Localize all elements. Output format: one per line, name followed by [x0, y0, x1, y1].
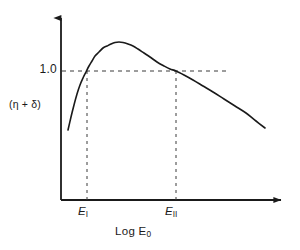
eta-plus-delta-curve: [68, 42, 265, 130]
x-tick-1-base: E: [78, 205, 86, 217]
x-axis-title-subscript: 0: [147, 230, 152, 239]
x-axis-tick-label-E-II: EII: [165, 206, 177, 220]
x-tick-1-subscript: I: [86, 210, 88, 219]
plot-canvas: [0, 0, 300, 250]
x-tick-2-subscript: II: [173, 210, 178, 219]
figure-container: 1.0 (η + δ) EI EII Log E0: [0, 0, 300, 250]
y-axis-tick-label-1.0: 1.0: [25, 63, 57, 75]
x-axis-tick-label-E-I: EI: [78, 206, 88, 220]
y-axis-title: (η + δ): [9, 99, 41, 110]
x-axis-title-base: Log E: [115, 225, 147, 237]
x-tick-2-base: E: [165, 205, 173, 217]
x-axis-title: Log E0: [115, 226, 151, 240]
